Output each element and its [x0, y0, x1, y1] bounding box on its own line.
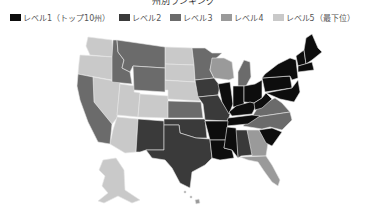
state-in — [233, 86, 244, 107]
state-wy — [133, 66, 165, 92]
state-ny — [262, 58, 298, 80]
state-fl — [240, 156, 280, 186]
us-state-map — [0, 0, 367, 214]
state-hi-islands — [184, 191, 192, 198]
state-az — [110, 117, 138, 153]
state-co — [138, 94, 168, 118]
state-ar — [205, 121, 228, 140]
state-hi — [195, 199, 200, 204]
state-ak — [98, 158, 140, 203]
state-mi — [238, 60, 251, 86]
state-ks — [168, 101, 203, 118]
state-wa — [86, 37, 113, 57]
state-nd — [165, 47, 194, 65]
state-sd — [165, 64, 195, 82]
state-nm — [136, 119, 164, 152]
state-wi — [210, 58, 234, 80]
state-ia — [195, 78, 220, 97]
state-me — [304, 34, 322, 64]
